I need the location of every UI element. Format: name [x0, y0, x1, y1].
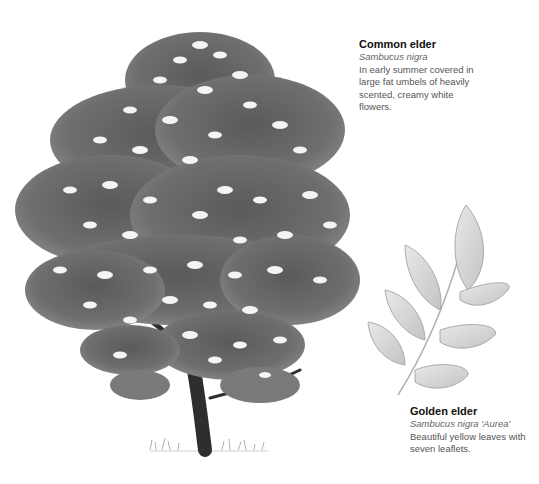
leaf-illustration [368, 205, 509, 395]
golden-elder-description: Beautiful yellow leaves with seven leafl… [410, 431, 535, 456]
common-elder-description: In early summer covered in large fat umb… [359, 64, 479, 114]
canopy [15, 32, 360, 403]
common-elder-caption: Common elder Sambucus nigra In early sum… [359, 38, 479, 114]
golden-elder-title: Golden elder [410, 405, 535, 418]
common-elder-title: Common elder [359, 38, 479, 51]
golden-elder-latin: Sambucus nigra 'Aurea' [410, 418, 535, 431]
common-elder-latin: Sambucus nigra [359, 51, 479, 64]
golden-elder-caption: Golden elder Sambucus nigra 'Aurea' Beau… [410, 405, 535, 456]
